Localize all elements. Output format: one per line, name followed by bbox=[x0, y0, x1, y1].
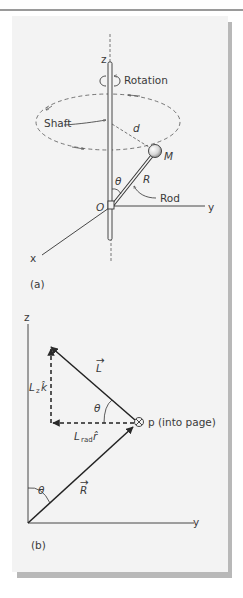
mass-ball bbox=[149, 145, 162, 158]
lrad-label: L rad r̂ bbox=[74, 430, 99, 444]
theta-label-a: θ bbox=[115, 175, 122, 187]
r-vector-arrow-glyph: → bbox=[80, 476, 89, 488]
orbit-arrow-left bbox=[46, 106, 52, 110]
distance-d-line bbox=[112, 124, 152, 149]
origin-pivot bbox=[108, 201, 114, 209]
origin-label: O bbox=[96, 201, 104, 213]
x-axis-label-a: x bbox=[30, 252, 36, 264]
y-axis-label-b: y bbox=[193, 516, 199, 528]
theta-label-b-bottom: θ bbox=[38, 484, 45, 496]
z-axis-label-b: z bbox=[24, 311, 30, 323]
rod-label: Rod bbox=[160, 192, 180, 204]
caption-b: (b) bbox=[31, 539, 46, 551]
orbit-arrow-top bbox=[128, 95, 140, 96]
radius-label: R bbox=[143, 173, 150, 185]
theta-arc-a bbox=[112, 189, 121, 194]
shaft-label: Shaft bbox=[44, 117, 71, 129]
rod-pointer bbox=[134, 186, 156, 198]
rotation-label: Rotation bbox=[124, 74, 168, 86]
svg-text:r̂: r̂ bbox=[93, 430, 99, 442]
svg-text:rad: rad bbox=[81, 436, 93, 444]
shaft bbox=[108, 62, 112, 240]
z-axis-label-a: z bbox=[101, 53, 107, 65]
theta-arc-b-top bbox=[104, 400, 112, 423]
svg-text:L: L bbox=[74, 430, 80, 442]
theta-label-b-top: θ bbox=[94, 402, 101, 414]
panel-a: z Rotation Shaft d M θ R Rod O y x (a) bbox=[30, 34, 214, 290]
momentum-label: p (into page) bbox=[148, 416, 216, 428]
lz-label: L z k̂ bbox=[29, 381, 48, 395]
figure-svg: z Rotation Shaft d M θ R Rod O y x (a) bbox=[0, 0, 243, 598]
y-axis-label-a: y bbox=[208, 201, 214, 213]
caption-a: (a) bbox=[30, 278, 45, 290]
x-axis bbox=[42, 208, 109, 255]
svg-text:k̂: k̂ bbox=[41, 381, 48, 393]
l-vector-arrow-glyph: → bbox=[96, 354, 105, 366]
panel-b: z y L → L z k̂ L rad r̂ θ θ R → p (into … bbox=[24, 311, 216, 551]
l-vector bbox=[51, 347, 135, 420]
svg-text:z: z bbox=[36, 387, 40, 395]
into-page-icon bbox=[135, 418, 144, 427]
mass-label: M bbox=[164, 150, 173, 162]
svg-text:L: L bbox=[29, 381, 35, 393]
distance-label: d bbox=[133, 122, 140, 134]
